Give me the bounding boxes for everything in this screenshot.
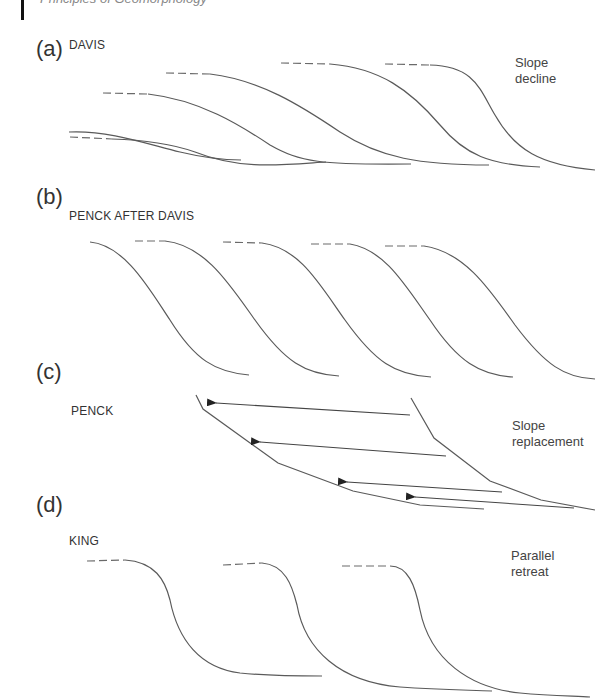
panel-b-profiles (90, 241, 595, 379)
retreat-arrow (347, 482, 502, 492)
retreat-arrow (260, 442, 446, 456)
panel-d-profiles (87, 560, 590, 697)
panel-a-profiles (69, 63, 595, 170)
slope-evolution-diagram (0, 0, 616, 698)
panel-c-profiles (196, 395, 595, 510)
retreat-arrow (216, 403, 410, 415)
